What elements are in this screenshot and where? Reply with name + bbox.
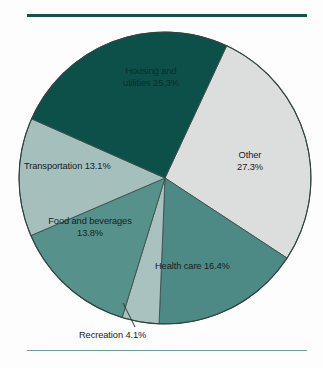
- slice-label-food-and-beverages: Food and beverages13.8%: [36, 216, 144, 239]
- slice-label-food-line2: 13.8%: [77, 228, 103, 238]
- slice-label-other-line2: 27.3%: [237, 162, 263, 172]
- slice-label-health-care: Health care 16.4%: [155, 261, 265, 273]
- pie-svg: [0, 0, 323, 368]
- slice-label-housing-line2: utilities 25.3%: [123, 78, 179, 88]
- slice-label-food-line1: Food and beverages: [48, 216, 131, 226]
- slice-label-transportation-line1: Transportation 13.1%: [24, 161, 111, 171]
- pie-chart-plot-area: [0, 0, 323, 368]
- slice-label-housing-and-utilities: Housing andutilities 25.3%: [105, 66, 197, 89]
- slice-label-recreation-line1: Recreation 4.1%: [79, 330, 146, 340]
- pie-chart-figure: Housing andutilities 25.3% Other27.3% He…: [0, 0, 323, 368]
- slice-label-transportation: Transportation 13.1%: [24, 161, 148, 173]
- slice-label-health-care-line1: Health care 16.4%: [155, 261, 230, 271]
- slice-label-other: Other27.3%: [219, 150, 281, 173]
- slice-label-housing-line1: Housing and: [125, 66, 176, 76]
- bottom-divider-rule: [27, 350, 307, 351]
- slice-label-other-line1: Other: [239, 150, 262, 160]
- slice-label-recreation: Recreation 4.1%: [79, 330, 189, 342]
